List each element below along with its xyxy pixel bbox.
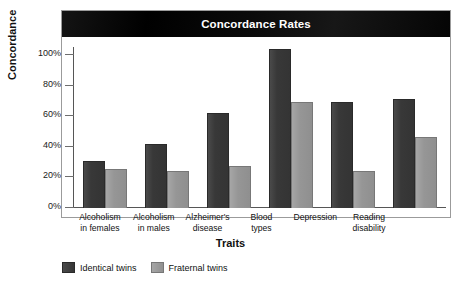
y-tick-label: 100% [38,48,61,58]
y-tick: 100% [65,54,74,55]
y-tick: 60% [65,115,74,116]
bar-fraternal-twins [105,169,127,208]
legend-label: Identical twins [80,263,137,273]
bar-fraternal-twins [291,102,313,208]
y-axis-title: Concordance [6,10,18,80]
x-tick-label: Alcoholismin females [73,212,127,233]
y-tick-label: 60% [43,109,61,119]
x-tick-label: Bloodtypes [234,212,288,233]
chart-frame: Concordance Rates 0%20%40%60%80%100% [61,10,451,218]
x-axis-tick-labels: Alcoholismin femalesAlcoholismin malesAl… [73,212,396,233]
bar-identical-twins [269,49,291,208]
bar-group [384,47,446,208]
chart-legend: Identical twinsFraternal twins [62,262,228,273]
x-tick-label: Alzheimer'sdisease [181,212,235,233]
bar-fraternal-twins [167,171,189,208]
legend-item: Fraternal twins [151,262,228,273]
bar-identical-twins [145,144,167,208]
bar-identical-twins [331,102,353,208]
legend-swatch [151,262,164,273]
bar-fraternal-twins [229,166,251,208]
y-tick-label: 80% [43,79,61,89]
y-tick: 20% [65,176,74,177]
y-tick-label: 20% [43,170,61,180]
bar-group [260,47,322,208]
x-tick-label: Alcoholismin males [127,212,181,233]
bar-group [136,47,198,208]
y-tick: 80% [65,85,74,86]
bar-group [198,47,260,208]
bar-group [322,47,384,208]
legend-item: Identical twins [62,262,137,273]
bar-identical-twins [83,161,105,208]
chart-title: Concordance Rates [201,18,311,30]
legend-label: Fraternal twins [169,263,228,273]
legend-swatch [62,262,75,273]
bar-group [74,47,136,208]
y-tick-label: 40% [43,140,61,150]
bar-fraternal-twins [353,171,375,208]
bar-identical-twins [207,113,229,208]
x-tick-label: Readingdisability [342,212,396,233]
bar-fraternal-twins [415,137,437,208]
chart-figure: Concordance Rates 0%20%40%60%80%100% Con… [0,0,461,291]
y-tick-label: 0% [48,201,61,211]
y-tick: 0% [65,207,74,208]
bars-container [74,47,446,208]
plot-area: 0%20%40%60%80%100% [62,37,450,217]
y-tick: 40% [65,146,74,147]
bar-identical-twins [393,99,415,208]
chart-title-bar: Concordance Rates [62,11,450,37]
x-tick-label: Depression [288,212,342,233]
x-axis-title: Traits [0,237,461,249]
